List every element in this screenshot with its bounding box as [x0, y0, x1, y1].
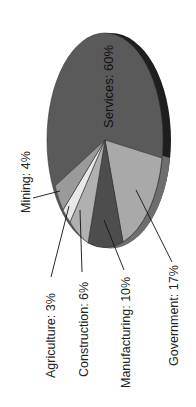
pie-chart: Services: 60% Mining: 4% Agriculture: 3%…	[0, 0, 196, 407]
label-construction: Construction: 6%	[77, 282, 91, 377]
label-services: Services: 60%	[101, 44, 116, 128]
label-agriculture: Agriculture: 3%	[44, 293, 58, 378]
label-manufacturing: Manufacturing: 10%	[119, 277, 133, 388]
label-government: Government: 17%	[167, 265, 181, 366]
label-mining: Mining: 4%	[19, 151, 33, 213]
